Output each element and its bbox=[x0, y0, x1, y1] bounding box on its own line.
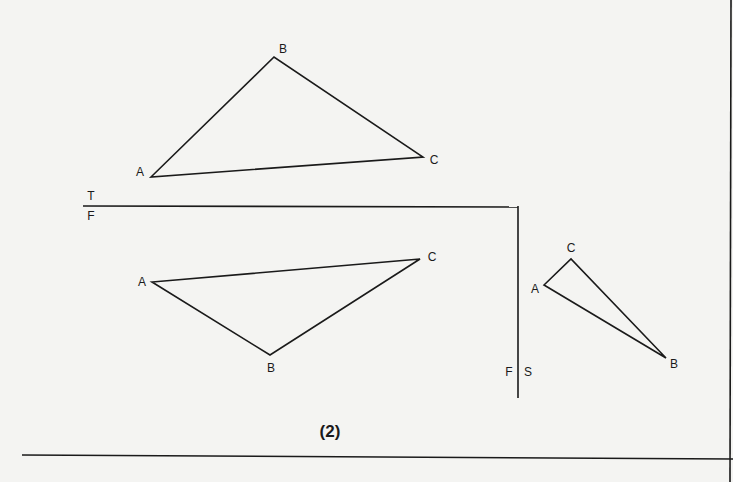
top-vertex-a-label: A bbox=[136, 166, 144, 178]
fold-label-s: S bbox=[524, 366, 532, 378]
fold-label-f-top: F bbox=[87, 210, 94, 222]
triangle-top-view bbox=[151, 57, 423, 177]
fold-label-f-side: F bbox=[505, 366, 512, 378]
triangle-side-view bbox=[544, 259, 666, 358]
top-vertex-b-label: B bbox=[279, 43, 287, 55]
top-vertex-c-label: C bbox=[430, 154, 439, 166]
bottom-border-line bbox=[22, 455, 733, 459]
right-border-line bbox=[730, 0, 731, 482]
front-vertex-a-label: A bbox=[138, 276, 146, 288]
orthographic-drawing bbox=[0, 0, 733, 482]
fold-line-top-front bbox=[83, 206, 518, 207]
fold-label-t: T bbox=[87, 190, 94, 202]
figure-caption: (2) bbox=[320, 422, 341, 442]
side-vertex-b-label: B bbox=[670, 358, 678, 370]
side-vertex-a-label: A bbox=[531, 283, 539, 295]
side-vertex-c-label: C bbox=[567, 242, 576, 254]
front-vertex-b-label: B bbox=[267, 362, 275, 374]
triangle-front-view bbox=[152, 259, 420, 355]
front-vertex-c-label: C bbox=[428, 251, 437, 263]
